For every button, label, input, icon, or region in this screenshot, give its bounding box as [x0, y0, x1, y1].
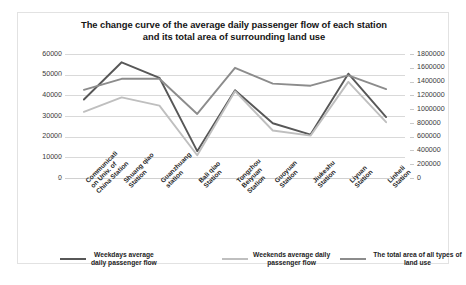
y-axis-right-tick-mark — [410, 109, 414, 110]
series-line-1 — [84, 62, 386, 151]
y-axis-right: 1800000160000014000001200000100000080000… — [409, 54, 466, 178]
y-axis-right-tick-mark — [410, 123, 414, 124]
y-axis-right-tick: 1200000 — [417, 91, 445, 99]
y-axis-right-tick-mark — [410, 178, 414, 179]
y-axis-right-tick-mark — [410, 95, 414, 96]
y-axis-right-tick: 800000 — [417, 119, 441, 127]
y-axis-right-tick-mark — [410, 137, 414, 138]
legend-item-2[interactable]: Weekends average dailypassenger flow — [222, 251, 330, 267]
y-axis-left-tick-mark — [58, 95, 62, 96]
legend-label: Weekdays averagedaily passenger flow — [91, 251, 157, 267]
chart-container: The change curve of the average daily pa… — [17, 12, 449, 264]
y-axis-right-tick: 200000 — [417, 160, 441, 168]
legend-item-1[interactable]: Weekdays averagedaily passenger flow — [60, 251, 157, 267]
y-axis-right-tick: 1800000 — [417, 50, 445, 58]
legend-item-3[interactable]: The total area of all types of land use — [340, 251, 464, 267]
y-axis-right-tick: 1600000 — [417, 63, 445, 71]
chart-title-line-1: The change curve of the average daily pa… — [46, 19, 422, 31]
y-axis-left-tick-mark — [58, 137, 62, 138]
y-axis-left: 6000050000400003000020000100000 — [18, 54, 62, 178]
y-axis-right-tick: 400000 — [417, 146, 441, 154]
y-axis-right-tick-mark — [410, 150, 414, 151]
y-axis-right-tick-mark — [410, 82, 414, 83]
x-axis-category-labels: Communication Univ. ofChina StationShuan… — [65, 179, 405, 243]
y-axis-right-tick: 0 — [417, 174, 421, 182]
y-axis-left-tick-mark — [58, 75, 62, 76]
y-axis-left-tick-mark — [58, 54, 62, 55]
y-axis-right-tick-mark — [410, 54, 414, 55]
y-axis-right-tick: 1400000 — [417, 77, 445, 85]
series-line-2 — [84, 82, 386, 155]
legend-swatch-icon — [340, 258, 366, 260]
legend-label: Weekends average dailypassenger flow — [253, 251, 330, 267]
y-axis-right-tick-mark — [410, 68, 414, 69]
y-axis-left-tick-mark — [58, 178, 62, 179]
legend-swatch-icon — [222, 258, 248, 260]
chart-legend: Weekdays averagedaily passenger flowWeek… — [40, 251, 464, 273]
y-axis-right-tick: 600000 — [417, 132, 441, 140]
chart-title-line-2: and its total area of surrounding land u… — [46, 31, 422, 43]
chart-title: The change curve of the average daily pa… — [46, 19, 422, 43]
y-axis-left-tick-mark — [58, 116, 62, 117]
y-axis-right-tick: 1000000 — [417, 105, 445, 113]
y-axis-left-tick-mark — [58, 157, 62, 158]
legend-label: The total area of all types of land use — [371, 251, 464, 267]
legend-swatch-icon — [60, 258, 86, 260]
y-axis-right-tick-mark — [410, 164, 414, 165]
